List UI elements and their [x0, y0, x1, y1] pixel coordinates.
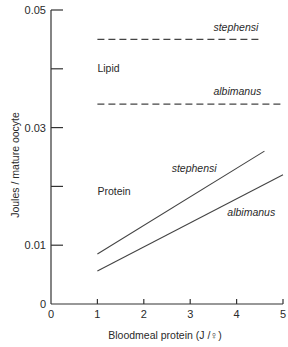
y-axis: 00.010.030.05	[25, 4, 63, 310]
annotation-label: Lipid	[97, 62, 119, 74]
x-tick-label: 5	[280, 308, 286, 320]
y-tick-label: 0	[40, 298, 46, 310]
annotation-label: stephensi	[172, 162, 218, 174]
chart-svg: 00.010.030.05 012345 Bloodmeal protein (…	[0, 0, 288, 347]
x-tick-label: 4	[234, 308, 240, 320]
x-tick-label: 2	[141, 308, 147, 320]
annotation-label: albimanus	[213, 85, 262, 97]
y-tick-label: 0.05	[25, 4, 46, 16]
x-axis-label: Bloodmeal protein (J /♀)	[108, 329, 222, 341]
chart: 00.010.030.05 012345 Bloodmeal protein (…	[0, 0, 288, 347]
annotation-label: stephensi	[213, 21, 259, 33]
annotations: stephensiLipidalbimanusstephensiProteina…	[97, 21, 276, 218]
annotation-label: Protein	[97, 185, 130, 197]
series-layer	[97, 39, 283, 271]
annotation-label: albimanus	[227, 206, 276, 218]
x-tick-label: 1	[94, 308, 100, 320]
x-tick-label: 3	[187, 308, 193, 320]
y-axis-label: Joules / mature oocyte	[9, 112, 21, 218]
x-axis: 012345	[48, 299, 286, 320]
y-tick-label: 0.01	[25, 239, 46, 251]
x-tick-label: 0	[48, 308, 54, 320]
y-tick-label: 0.03	[25, 122, 46, 134]
